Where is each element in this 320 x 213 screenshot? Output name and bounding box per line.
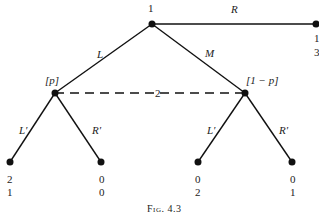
move-label-right-Lprime: L′ xyxy=(207,125,216,136)
move-label-right-Rprime: R′ xyxy=(279,125,288,136)
leaf-1-payoff-p1: 2 xyxy=(7,174,13,185)
move-label-L: L xyxy=(97,49,103,60)
root-node xyxy=(149,21,156,28)
decision-node-left xyxy=(52,90,59,97)
terminal-node-2 xyxy=(98,159,105,166)
leaf-4-payoff-p1: 0 xyxy=(290,174,296,185)
leaf-3-payoff-p1: 0 xyxy=(195,174,201,185)
edge-M xyxy=(152,24,245,93)
game-tree-edges xyxy=(0,0,319,213)
terminal-node-R xyxy=(313,21,320,28)
leaf-4-payoff-p2: 1 xyxy=(290,187,296,198)
terminal-node-1 xyxy=(7,159,14,166)
edge-left-Lprime xyxy=(10,93,55,162)
move-label-left-Rprime: R′ xyxy=(92,125,101,136)
move-label-R: R xyxy=(231,4,238,15)
leaf-2-payoff-p1: 0 xyxy=(99,174,105,185)
outside-payoff-p1: 1 xyxy=(314,33,319,44)
leaf-2-payoff-p2: 0 xyxy=(99,187,105,198)
decision-node-right xyxy=(242,90,249,97)
leaf-3-payoff-p2: 2 xyxy=(195,187,201,198)
belief-left: [p] xyxy=(45,75,59,86)
belief-right: [1 − p] xyxy=(246,75,278,86)
terminal-node-4 xyxy=(289,159,296,166)
move-label-M: M xyxy=(205,48,214,59)
info-set-player-label: 2 xyxy=(155,88,161,99)
edge-right-Lprime xyxy=(198,93,245,162)
terminal-node-3 xyxy=(195,159,202,166)
edge-L xyxy=(55,24,152,93)
figure-caption: Fig. 4.3 xyxy=(147,203,181,213)
outside-payoff-p2: 3 xyxy=(314,47,319,58)
root-player-label: 1 xyxy=(148,3,154,14)
move-label-left-Lprime: L′ xyxy=(19,125,28,136)
leaf-1-payoff-p2: 1 xyxy=(7,187,13,198)
